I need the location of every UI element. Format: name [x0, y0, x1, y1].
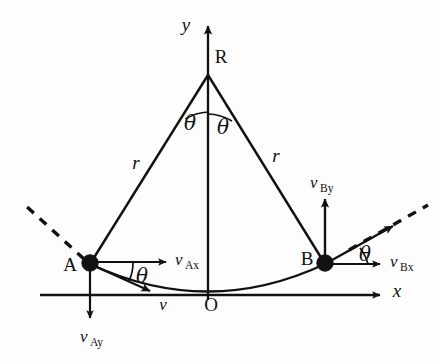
apex-label-r: R	[215, 46, 228, 67]
radius-right-line	[208, 75, 325, 264]
point-a-dot	[82, 255, 98, 271]
v-ax-sub: Ax	[185, 259, 199, 271]
radius-left-line	[90, 75, 208, 264]
v-by-base: v	[310, 173, 318, 192]
physics-diagram-svg: y x O R A B r r θ θ θ θ v Ax v Ay	[0, 0, 438, 362]
x-axis-label: x	[392, 280, 402, 301]
physics-diagram-canvas: y x O R A B r r θ θ θ θ v Ax v Ay	[0, 0, 438, 362]
v-bx-base: v	[390, 252, 398, 271]
label-group: y x O R A B r r θ θ θ θ v Ax v Ay	[63, 14, 414, 348]
apex-angle-left-label: θ	[184, 111, 196, 135]
v-ax-base: v	[175, 250, 183, 269]
point-b-dot	[317, 255, 333, 271]
v-bx-sub: Bx	[400, 261, 414, 273]
v-ax-label: v Ax	[175, 250, 199, 271]
point-b-label: B	[301, 248, 314, 269]
point-a-label: A	[63, 254, 77, 275]
apex-angle-right-label: θ	[217, 115, 229, 139]
angle-b-label: θ	[359, 242, 371, 266]
y-axis-label: y	[180, 14, 191, 35]
radius-left-label: r	[132, 152, 140, 173]
v-ay-base: v	[80, 327, 88, 346]
v-ay-sub: Ay	[90, 336, 103, 349]
v-by-label: v By	[310, 173, 334, 195]
v-ay-label: v Ay	[80, 327, 103, 349]
radius-right-label: r	[272, 145, 280, 166]
v-tangent-label: v	[159, 295, 167, 314]
origin-label: O	[204, 294, 218, 315]
tangent-dashed-line-a	[26, 206, 84, 259]
v-by-sub: By	[320, 182, 334, 195]
angle-a-label: θ	[136, 264, 148, 288]
angle-arc-a	[129, 262, 133, 281]
v-bx-label: v Bx	[390, 252, 414, 273]
